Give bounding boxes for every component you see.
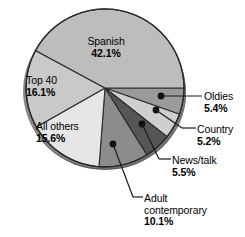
pie-chart-figure: Spanish 42.1% Top 40 16.1% All others 15… — [0, 0, 245, 237]
callout-label-country: Country 5.2% — [197, 124, 233, 147]
slice-label-spanish-value: 42.1% — [70, 48, 142, 60]
callout-label-oldies-value: 5.4% — [204, 103, 233, 115]
callout-label-news-talk-value: 5.5% — [172, 167, 217, 179]
slice-label-top-40-name: Top 40 — [26, 75, 84, 87]
slice-label-all-others-name: All others — [36, 121, 98, 133]
slice-label-top-40-value: 16.1% — [26, 87, 84, 99]
slice-label-all-others-value: 15.6% — [36, 133, 98, 145]
slice-label-all-others: All others 15.6% — [36, 121, 98, 144]
callout-label-news-talk: News/talk 5.5% — [172, 155, 217, 178]
callout-label-oldies: Oldies 5.4% — [204, 91, 233, 114]
callout-label-oldies-name: Oldies — [204, 91, 233, 103]
callout-label-adult-line1: Adult — [144, 193, 207, 205]
callout-label-adult-contemporary: Adult contemporary 10.1% — [144, 193, 207, 228]
callout-label-news-talk-name: News/talk — [172, 155, 217, 167]
slice-label-spanish-name: Spanish — [70, 36, 142, 48]
slice-label-spanish: Spanish 42.1% — [70, 36, 142, 59]
callout-label-country-value: 5.2% — [197, 136, 233, 148]
slice-label-top-40: Top 40 16.1% — [26, 75, 84, 98]
callout-label-adult-value: 10.1% — [144, 216, 207, 228]
callout-label-country-name: Country — [197, 124, 233, 136]
